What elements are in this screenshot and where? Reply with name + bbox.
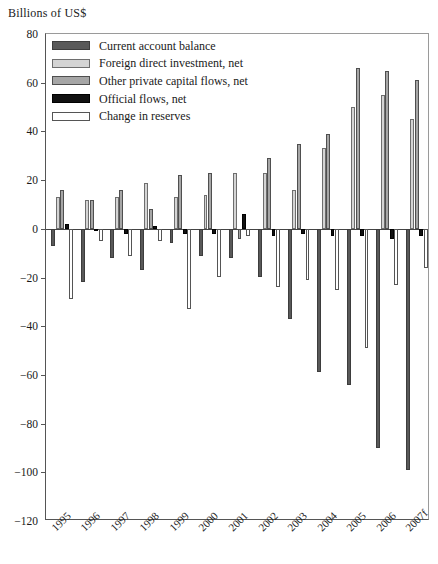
chart-root: Billions of US$ 806040200−20−40−60−80−10…: [0, 0, 438, 564]
bar[interactable]: [140, 229, 144, 270]
y-axis-tick-mark: [41, 131, 46, 132]
y-axis-units-label: Billions of US$: [8, 6, 86, 21]
chart-legend: Current account balanceForeign direct in…: [52, 37, 282, 125]
bar[interactable]: [60, 190, 64, 229]
bar[interactable]: [376, 229, 380, 448]
bar[interactable]: [246, 229, 250, 236]
bar[interactable]: [178, 175, 182, 229]
bar[interactable]: [424, 229, 428, 268]
y-axis-tick-label: −100: [4, 466, 38, 478]
bar[interactable]: [415, 80, 419, 229]
bar[interactable]: [51, 229, 55, 246]
bar[interactable]: [267, 158, 271, 229]
bar[interactable]: [233, 173, 237, 229]
bar[interactable]: [317, 229, 321, 373]
bar[interactable]: [183, 229, 187, 234]
bar[interactable]: [360, 229, 364, 236]
legend-item: Foreign direct investment, net: [52, 55, 282, 73]
legend-swatch-reserves: [52, 112, 90, 121]
y-axis-tick-label: −120: [4, 515, 38, 527]
y-axis-tick-mark: [41, 424, 46, 425]
bar[interactable]: [144, 183, 148, 229]
bar[interactable]: [331, 229, 335, 236]
y-axis-tick-label: −40: [4, 320, 38, 332]
bar[interactable]: [326, 134, 330, 229]
bar[interactable]: [217, 229, 221, 278]
bar[interactable]: [187, 229, 191, 309]
bar[interactable]: [381, 95, 385, 229]
bar[interactable]: [288, 229, 292, 319]
legend-swatch-other-private: [52, 76, 90, 85]
bar[interactable]: [115, 197, 119, 229]
bar[interactable]: [212, 229, 216, 234]
bar[interactable]: [263, 173, 267, 229]
bar-group: [406, 34, 428, 519]
bar[interactable]: [238, 229, 242, 239]
y-axis-tick-label: 60: [4, 77, 38, 89]
y-axis-tick-label: 40: [4, 125, 38, 137]
bar[interactable]: [99, 229, 103, 241]
bar-group: [347, 34, 369, 519]
y-axis-tick-label: −80: [4, 418, 38, 430]
y-axis-tick-label: 0: [4, 223, 38, 235]
bar[interactable]: [301, 229, 305, 234]
legend-item-label: Current account balance: [99, 40, 216, 52]
y-axis-tick-mark: [41, 278, 46, 279]
bar[interactable]: [174, 197, 178, 229]
legend-item: Change in reserves: [52, 107, 282, 125]
bar[interactable]: [170, 229, 174, 244]
legend-item-label: Foreign direct investment, net: [99, 57, 243, 69]
bar[interactable]: [297, 144, 301, 229]
bar[interactable]: [419, 229, 423, 236]
bar[interactable]: [90, 200, 94, 229]
legend-item: Current account balance: [52, 37, 282, 55]
y-axis-tick-mark: [41, 229, 46, 230]
y-axis-tick-mark: [41, 83, 46, 84]
bar-group: [317, 34, 339, 519]
bar[interactable]: [119, 190, 123, 229]
bar[interactable]: [65, 224, 69, 229]
bar[interactable]: [322, 148, 326, 228]
bar[interactable]: [199, 229, 203, 256]
legend-item: Official flows, net: [52, 90, 282, 108]
bar[interactable]: [204, 195, 208, 229]
bar[interactable]: [158, 229, 162, 241]
bar[interactable]: [347, 229, 351, 385]
bar[interactable]: [128, 229, 132, 256]
bar[interactable]: [229, 229, 233, 258]
bar[interactable]: [258, 229, 262, 278]
bar[interactable]: [276, 229, 280, 287]
bar[interactable]: [56, 197, 60, 229]
bar[interactable]: [390, 229, 394, 239]
bar[interactable]: [406, 229, 410, 470]
bar[interactable]: [94, 229, 98, 231]
bar[interactable]: [242, 214, 246, 229]
bar[interactable]: [410, 119, 414, 229]
legend-swatch-official: [52, 94, 90, 103]
y-axis-tick-label: −20: [4, 272, 38, 284]
bar[interactable]: [69, 229, 73, 300]
bar[interactable]: [208, 173, 212, 229]
y-axis-tick-mark: [41, 472, 46, 473]
bar[interactable]: [149, 209, 153, 228]
y-axis-tick-mark: [41, 375, 46, 376]
bar[interactable]: [85, 200, 89, 229]
y-axis-tick-label: −60: [4, 369, 38, 381]
bar[interactable]: [356, 68, 360, 229]
bar[interactable]: [153, 226, 157, 228]
bar[interactable]: [365, 229, 369, 348]
bar[interactable]: [394, 229, 398, 285]
bar[interactable]: [385, 71, 389, 229]
bar[interactable]: [110, 229, 114, 258]
y-axis-tick-label: 80: [4, 28, 38, 40]
bar[interactable]: [81, 229, 85, 283]
bar[interactable]: [292, 190, 296, 229]
bar[interactable]: [272, 229, 276, 236]
legend-swatch-current-account: [52, 41, 90, 50]
bar-group: [376, 34, 398, 519]
bar[interactable]: [306, 229, 310, 280]
bar[interactable]: [124, 229, 128, 234]
bar[interactable]: [351, 107, 355, 229]
bar-group: [288, 34, 310, 519]
bar[interactable]: [335, 229, 339, 290]
